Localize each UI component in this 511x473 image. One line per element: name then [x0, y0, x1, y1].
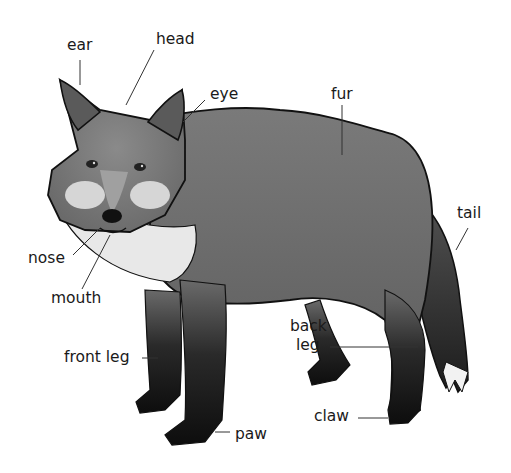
label-front-leg: front leg	[64, 349, 129, 365]
label-nose: nose	[28, 250, 65, 266]
right-eye	[134, 163, 146, 171]
label-eye: eye	[210, 86, 238, 102]
label-head: head	[156, 31, 195, 47]
left-eye	[86, 160, 98, 168]
label-leg: leg	[296, 337, 320, 353]
label-fur: fur	[331, 86, 353, 102]
nose-shape	[102, 209, 122, 223]
label-ear: ear	[67, 37, 92, 53]
fox-parts-diagram: ear head eye fur tail nose mouth front l…	[0, 0, 511, 473]
label-back: back	[290, 318, 327, 334]
label-mouth: mouth	[51, 290, 101, 306]
label-paw: paw	[235, 426, 267, 442]
label-tail: tail	[457, 205, 481, 221]
label-claw: claw	[314, 408, 349, 424]
fox-illustration	[0, 0, 511, 473]
